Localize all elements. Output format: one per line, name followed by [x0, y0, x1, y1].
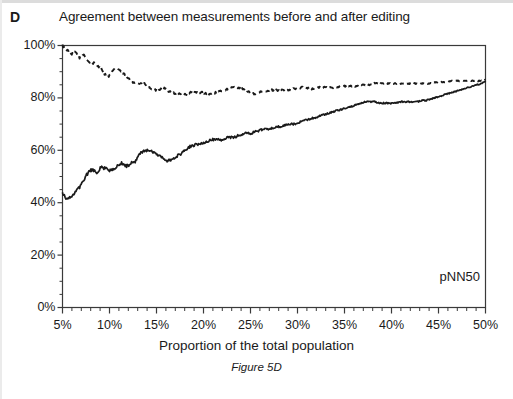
series-annotation-pnn50: pNN50 [440, 270, 480, 283]
axis-ticks [58, 46, 486, 314]
y-tick-label: 60% [10, 144, 56, 157]
x-tick-label: 50% [456, 319, 513, 332]
y-tick-label: 80% [10, 91, 56, 104]
plot-frame [63, 46, 486, 308]
y-tick-label: 0% [10, 301, 56, 314]
y-tick-label: 20% [10, 249, 56, 262]
figure-panel-5d: D Agreement between measurements before … [0, 0, 513, 399]
figure-caption: Figure 5D [0, 362, 513, 374]
y-tick-label: 40% [10, 196, 56, 209]
data-series-lower-solid [63, 81, 486, 199]
y-tick-label: 100% [10, 39, 56, 52]
data-series-upper-dashed [63, 45, 486, 95]
data-series-group [63, 45, 486, 200]
x-axis-title: Proportion of the total population [0, 339, 513, 353]
